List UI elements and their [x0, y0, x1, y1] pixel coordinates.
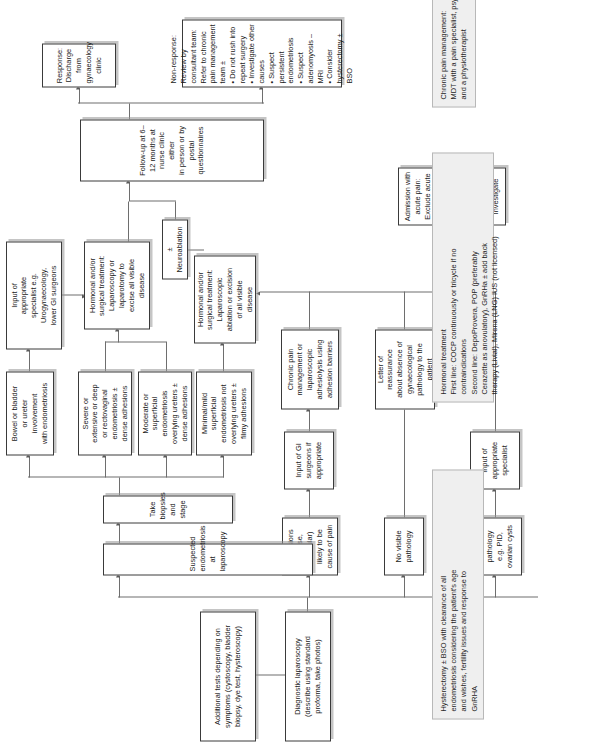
note-chronic-pain-management: Chronic pain management: MDT with a pain…	[432, 0, 476, 107]
node-label: ± Neuroablation	[165, 223, 185, 275]
connector	[166, 341, 167, 371]
node-response-discharge[interactable]: Response: Discharge from gynaecology cli…	[42, 43, 116, 87]
node-label: Take biopsies and stage	[148, 499, 187, 519]
node-label: Additional tests depending on symptoms (…	[213, 615, 242, 737]
node-diagnostic-laparoscopy[interactable]: Diagnostic laparoscopy (describe using s…	[285, 611, 331, 741]
node-label: Hormonal and/or surgical treatment: Lapa…	[88, 245, 147, 325]
node-label: Follow-up at 6–12 months at nurse clinic…	[138, 123, 206, 177]
node-input-gi-surgeons[interactable]: Input of GI surgeons if appropriate	[284, 431, 334, 489]
connector	[309, 575, 310, 597]
node-label: Chronic pain management or laparoscopic …	[286, 333, 335, 405]
connector	[105, 341, 166, 342]
connector	[404, 291, 405, 329]
node-take-biopsies[interactable]: Take biopsies and stage	[103, 495, 233, 523]
node-follow-up[interactable]: Follow-up at 6–12 months at nurse clinic…	[80, 119, 264, 181]
connector	[119, 575, 120, 597]
node-additional-tests[interactable]: Additional tests depending on symptoms (…	[200, 611, 256, 741]
connector	[175, 201, 176, 219]
connector	[28, 476, 224, 477]
note-text: Hysterectomy ± BSO with clearance of all…	[439, 477, 480, 711]
connector	[186, 249, 204, 250]
node-hormonal-ablation[interactable]: Hormonal and/or surgical treatment: Lapa…	[194, 255, 256, 343]
connector	[309, 489, 310, 517]
connector	[29, 349, 30, 371]
node-label: Minimal/mild superficial endometriosis n…	[200, 375, 249, 451]
note-hormonal-treatment: Hormonal treatment First line: COCP cont…	[432, 152, 494, 402]
connector	[105, 455, 106, 477]
connector	[129, 103, 130, 119]
flowchart-stage: Additional tests depending on symptoms (…	[0, 0, 596, 747]
node-label: Input of appropriate specialist e.g. Uro…	[10, 245, 59, 345]
node-letter-of-reassurance[interactable]: Letter of reassurance about absence of g…	[375, 329, 435, 409]
node-moderate-superficial[interactable]: Moderate or superficial endometriosis ov…	[138, 371, 192, 455]
connector	[119, 477, 120, 495]
connector	[62, 294, 84, 295]
connector	[309, 409, 310, 431]
connector	[223, 343, 224, 371]
connector	[129, 181, 130, 201]
note-text: Chronic pain management: MDT with a pain…	[439, 0, 470, 99]
connector	[404, 575, 405, 597]
connector	[309, 291, 310, 329]
connector	[495, 489, 496, 517]
connector	[119, 523, 120, 543]
connector	[78, 102, 264, 103]
node-label: Severe or extensive or deep or rectovagi…	[81, 375, 130, 451]
node-label: Suspected endometriosis at laparoscopy	[188, 547, 227, 571]
node-minimal-mild[interactable]: Minimal/mild superficial endometriosis n…	[196, 371, 252, 455]
connector	[105, 341, 106, 371]
arrow-head	[256, 291, 260, 295]
flowchart-canvas: Additional tests depending on symptoms (…	[0, 0, 596, 747]
connector	[29, 455, 30, 477]
connector	[255, 674, 285, 675]
node-label: Input of GI surgeons if appropriate	[294, 435, 323, 485]
connector	[223, 455, 224, 477]
node-label: Hormonal and/or surgical treatment: Lapa…	[196, 259, 255, 339]
node-no-visible-pathology[interactable]: No visible pathology	[384, 517, 424, 575]
node-label: Diagnostic laparoscopy (describe using s…	[293, 615, 322, 737]
node-label: No visible pathology	[394, 521, 414, 571]
node-non-response-review[interactable]: Non-response: Review by consultant team:…	[182, 19, 342, 87]
node-label: Non-response: Review by consultant team:…	[169, 23, 355, 83]
node-suspected-endometriosis[interactable]: Suspected endometriosis at laparoscopy	[103, 543, 313, 575]
connector	[130, 200, 176, 201]
node-chronic-pain-adhesiolysis[interactable]: Chronic pain management or laparoscopic …	[281, 329, 339, 409]
connector	[404, 409, 405, 517]
node-neuroablation[interactable]: ± Neuroablation	[162, 219, 188, 279]
connector	[166, 455, 167, 477]
connector	[495, 575, 496, 597]
node-label: Input of appropriate specialist	[480, 435, 509, 485]
node-input-specialist-urogynaecology[interactable]: Input of appropriate specialist e.g. Uro…	[6, 241, 62, 349]
note-text: Hormonal treatment First line: COCP cont…	[439, 160, 500, 394]
node-label: Response: Discharge from gynaecology cli…	[55, 47, 104, 83]
node-bowel-bladder-involvement[interactable]: Bowel or bladder or ureter involvement w…	[6, 371, 54, 455]
node-label: Letter of reassurance about absence of g…	[376, 333, 435, 405]
node-label: Bowel or bladder or ureter involvement w…	[10, 375, 49, 451]
node-label: Moderate or superficial endometriosis ov…	[141, 375, 190, 451]
node-hormonal-excise[interactable]: Hormonal and/or surgical treatment: Lapa…	[84, 241, 150, 329]
node-severe-extensive[interactable]: Severe or extensive or deep or rectovagi…	[78, 371, 132, 455]
note-hysterectomy-bso: Hysterectomy ± BSO with clearance of all…	[432, 469, 484, 719]
connector	[128, 201, 129, 242]
